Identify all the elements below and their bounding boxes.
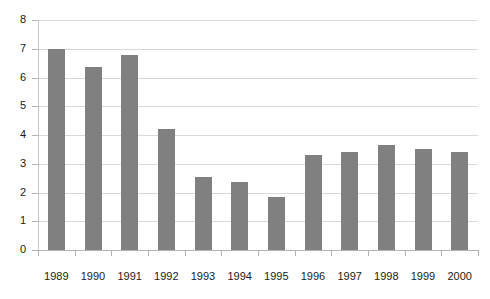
x-tick [441,251,442,256]
y-axis-tick-label: 6 [6,72,26,83]
y-axis-tick-label: 8 [6,14,26,25]
x-tick [38,251,39,256]
bar-2000 [451,152,468,250]
y-axis-tick-label: 3 [6,158,26,169]
x-tick [331,251,332,256]
x-axis-tick-label: 1997 [330,271,370,282]
x-axis-tick-label: 1998 [366,271,406,282]
x-tick [405,251,406,256]
bar-1991 [121,55,138,251]
bar-1999 [415,149,432,250]
bar-1997 [341,152,358,250]
x-axis-tick-label: 1996 [293,271,333,282]
bar-1993 [195,177,212,250]
bar-1989 [48,49,65,250]
x-tick [221,251,222,256]
x-axis-tick-label: 1993 [183,271,223,282]
x-axis-tick-label: 1995 [256,271,296,282]
x-tick [148,251,149,256]
bar-1995 [268,197,285,250]
y-axis-tick-label: 7 [6,43,26,54]
plot-area [38,20,478,250]
y-axis-tick-label: 5 [6,100,26,111]
y-axis-tick-label: 2 [6,187,26,198]
x-tick [185,251,186,256]
x-tick [111,251,112,256]
bar-chart: 012345678 198919901991199219931994199519… [0,0,490,299]
x-axis-tick-label: 1990 [73,271,113,282]
x-tick [295,251,296,256]
x-axis-tick-label: 1999 [403,271,443,282]
bar-1998 [378,145,395,250]
x-axis-tick-label: 2000 [440,271,480,282]
x-axis-tick-label: 1994 [220,271,260,282]
bar-1994 [231,182,248,250]
x-tick [368,251,369,256]
x-axis-tick-label: 1991 [110,271,150,282]
x-axis-tick-label: 1992 [146,271,186,282]
x-axis-tick-label: 1989 [36,271,76,282]
bar-1990 [85,67,102,250]
y-axis-tick-label: 0 [6,244,26,255]
x-tick [75,251,76,256]
y-axis-tick-label: 1 [6,215,26,226]
bar-1996 [305,155,322,250]
x-tick [258,251,259,256]
y-axis-tick-label: 4 [6,129,26,140]
x-tick [478,251,479,256]
bar-1992 [158,129,175,250]
